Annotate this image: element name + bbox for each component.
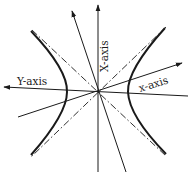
Y-axis-label: Y-axis	[16, 75, 47, 87]
X-axis-label: X-axis	[98, 40, 110, 72]
hyperbola-diagram: Y-axis x-axis X-axis	[0, 0, 191, 174]
hyperbola-left-branch	[31, 31, 67, 155]
